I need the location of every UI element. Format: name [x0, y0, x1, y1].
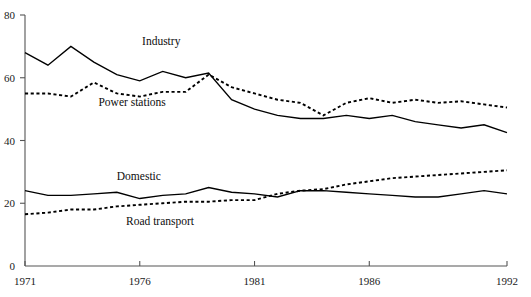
series-label-road-transport: Road transport — [126, 215, 195, 228]
line-chart: 020406080 19711976198119861992 IndustryP… — [0, 0, 531, 297]
x-axis: 19711976198119861992 — [14, 261, 518, 287]
series-label-industry: Industry — [142, 35, 181, 48]
series-label-power-stations: Power stations — [98, 96, 166, 108]
x-axis-tick-label: 1986 — [358, 275, 381, 287]
y-axis-tick-label: 60 — [4, 72, 16, 84]
series-label-domestic: Domestic — [117, 170, 161, 182]
series-line-road-transport — [25, 170, 507, 214]
y-axis-tick-label: 0 — [10, 260, 16, 272]
x-axis-tick-label: 1992 — [496, 275, 518, 287]
series-line-industry — [25, 46, 507, 132]
chart-plot-area: 020406080 19711976198119861992 IndustryP… — [0, 0, 531, 297]
series-labels: IndustryPower stationsDomesticRoad trans… — [98, 35, 194, 228]
y-axis-tick-label: 20 — [4, 197, 16, 209]
x-axis-tick-label: 1981 — [244, 275, 266, 287]
y-axis: 020406080 — [4, 9, 25, 272]
series-line-power-stations — [25, 75, 507, 116]
x-axis-tick-label: 1971 — [14, 275, 36, 287]
y-axis-tick-label: 80 — [4, 9, 16, 21]
x-axis-tick-label: 1976 — [129, 275, 152, 287]
series-group — [25, 46, 507, 214]
y-axis-tick-label: 40 — [4, 135, 16, 147]
